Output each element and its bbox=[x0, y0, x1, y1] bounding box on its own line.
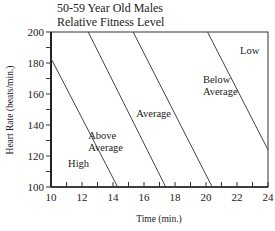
region-label: Below bbox=[203, 74, 231, 85]
fitness-chart: 50-59 Year Old Males Relative Fitness Le… bbox=[0, 0, 274, 231]
y-tick-label: 180 bbox=[28, 57, 45, 69]
x-tick-label: 10 bbox=[46, 191, 58, 203]
x-tick-label: 24 bbox=[263, 191, 275, 203]
x-axis-label: Time (min.) bbox=[136, 214, 182, 225]
x-tick-label: 16 bbox=[139, 191, 151, 203]
x-tick-label: 14 bbox=[108, 191, 120, 203]
x-tick-label: 20 bbox=[201, 191, 213, 203]
x-tick-label: 12 bbox=[77, 191, 88, 203]
region-label: High bbox=[68, 158, 90, 169]
y-tick-label: 200 bbox=[28, 26, 45, 38]
region-label: Above bbox=[88, 130, 116, 141]
y-tick-label: 160 bbox=[28, 88, 45, 100]
chart-container: 50-59 Year Old Males Relative Fitness Le… bbox=[0, 0, 274, 231]
region-label: Low bbox=[240, 45, 260, 56]
y-tick-label: 140 bbox=[28, 119, 45, 131]
region-label: Average bbox=[203, 86, 238, 97]
y-tick-label: 120 bbox=[28, 150, 45, 162]
region-label: Average bbox=[136, 108, 171, 119]
chart-subtitle: Relative Fitness Level bbox=[57, 15, 165, 29]
chart-title: 50-59 Year Old Males bbox=[57, 1, 163, 15]
x-tick-label: 18 bbox=[170, 191, 182, 203]
region-label: Average bbox=[88, 142, 123, 153]
y-tick-label: 100 bbox=[28, 181, 45, 193]
x-tick-label: 22 bbox=[232, 191, 243, 203]
y-axis-label: Heart Rate (beats/min.) bbox=[5, 66, 16, 155]
